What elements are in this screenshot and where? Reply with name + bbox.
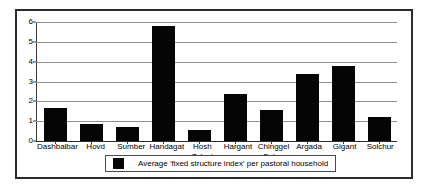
bar-slot (73, 22, 109, 141)
bar-dashbalbar[interactable] (44, 108, 67, 141)
x-axis-label-line: Gigant (327, 142, 363, 152)
y-tick-mark-3 (33, 81, 36, 82)
bar-slot (289, 22, 325, 141)
y-tick-mark-1 (33, 121, 36, 122)
chart-figure: 0123456 DashbalbarHovdSumberHandagatHosh… (15, 9, 413, 179)
x-axis-label-line: Hosh (185, 142, 221, 152)
x-axis-label-line: Dashbalbar (37, 142, 78, 152)
y-axis-tick-label: 4 (29, 58, 33, 66)
bar-slot (109, 22, 145, 141)
x-axis-label-line: Argada (291, 142, 327, 152)
y-tick-mark-6 (33, 22, 36, 23)
plot-area: 0123456 (36, 22, 397, 141)
bar-slot (217, 22, 253, 141)
bar-slot (361, 22, 397, 141)
y-tick-mark-4 (33, 61, 36, 62)
bar-slot (37, 22, 73, 141)
bar-hovd[interactable] (80, 124, 103, 141)
y-axis-tick-label: 5 (29, 38, 33, 46)
bar-group (37, 22, 397, 141)
x-axis-label-dashbalbar: Dashbalbar (37, 142, 78, 161)
bar-argada[interactable] (296, 74, 319, 141)
y-axis-tick-label: 6 (29, 18, 33, 26)
y-tick-mark-0 (33, 141, 36, 142)
x-axis-label-line: Hovd (78, 142, 114, 152)
bar-gigant[interactable] (332, 66, 355, 141)
y-axis-tick-label: 2 (29, 97, 33, 105)
bar-hargant[interactable] (224, 94, 247, 141)
x-axis-label-line: Handagat (149, 142, 185, 152)
y-axis-tick-label: 0 (29, 137, 33, 145)
bar-sumber[interactable] (116, 127, 139, 141)
y-axis-tick-label: 1 (29, 117, 33, 125)
bar-chinggel-bulag[interactable] (260, 110, 283, 141)
y-tick-mark-5 (33, 41, 36, 42)
x-axis-label-line: Chinggel (256, 142, 292, 152)
y-tick-mark-2 (33, 101, 36, 102)
legend-label-series-1: Average 'fixed structure index' per past… (138, 159, 328, 168)
bar-hosh-tolgoi[interactable] (188, 130, 211, 141)
x-axis-label-solchur: Solchur (362, 142, 398, 161)
x-axis-label-line: Solchur (362, 142, 398, 152)
y-axis-tick-label: 3 (29, 78, 33, 86)
chart-legend: Average 'fixed structure index' per past… (105, 155, 336, 172)
bar-slot (253, 22, 289, 141)
bar-slot (325, 22, 361, 141)
x-axis-label-line: Hargant (220, 142, 256, 152)
bar-solchur[interactable] (368, 117, 391, 141)
legend-swatch-series-1 (113, 158, 124, 169)
bar-handagat[interactable] (152, 26, 175, 141)
bar-slot (145, 22, 181, 141)
bar-slot (181, 22, 217, 141)
x-axis-label-line: Sumber (113, 142, 149, 152)
